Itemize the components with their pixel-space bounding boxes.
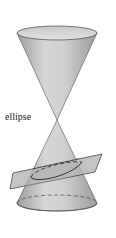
upper-nappe (17, 26, 97, 120)
double-cone-figure: ellipse (0, 0, 116, 238)
ellipse-label: ellipse (5, 112, 31, 122)
